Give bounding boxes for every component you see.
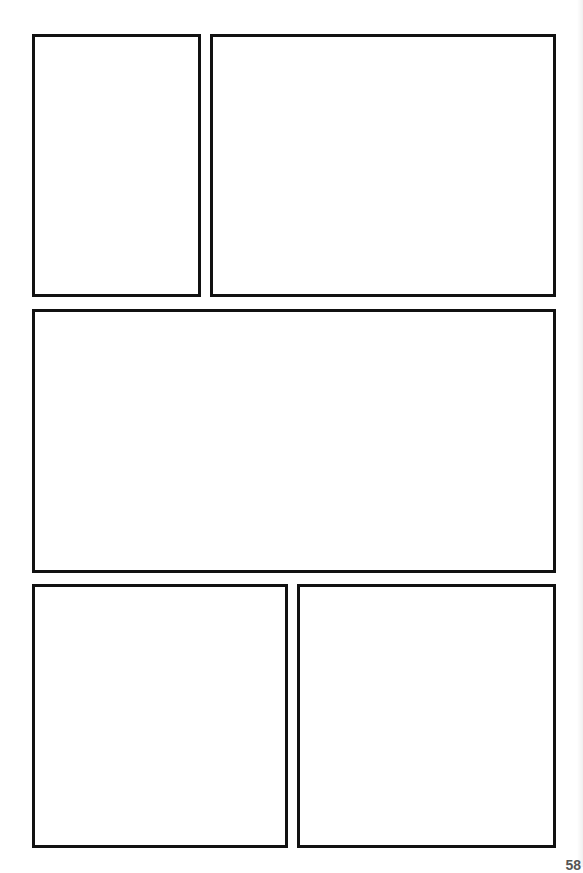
panel-5 bbox=[297, 584, 556, 848]
panel-1 bbox=[32, 34, 201, 297]
panel-4 bbox=[32, 584, 288, 848]
page-number: 58 bbox=[565, 857, 581, 873]
panel-3 bbox=[32, 309, 556, 573]
page-edge-shadow bbox=[577, 0, 583, 867]
panel-2 bbox=[210, 34, 556, 297]
